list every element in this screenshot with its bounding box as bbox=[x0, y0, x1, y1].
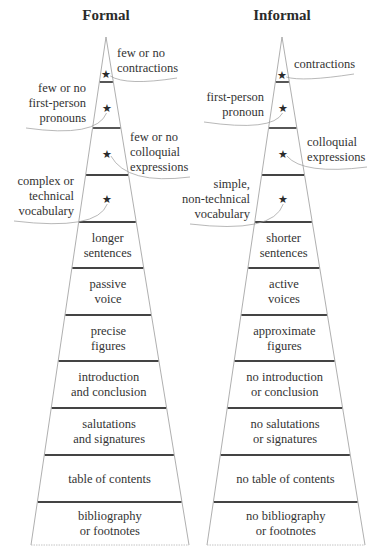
callout-label: contractions bbox=[117, 61, 178, 75]
informal-tier-label: sentences bbox=[260, 246, 308, 260]
star-icon: ★ bbox=[101, 68, 111, 80]
callout-label: simple, bbox=[214, 177, 250, 191]
formal-tier-label: table of contents bbox=[68, 472, 151, 486]
formal-tier-label: bibliography bbox=[78, 509, 143, 523]
informal-tier-label: no introduction bbox=[246, 370, 323, 384]
star-icon: ★ bbox=[102, 148, 112, 160]
informal-tier-label: no table of contents bbox=[236, 472, 334, 486]
callout-leader-line bbox=[110, 76, 177, 82]
formal-tier-label: precise bbox=[91, 324, 127, 338]
formal-tier-label: figures bbox=[91, 339, 126, 353]
star-icon: ★ bbox=[278, 102, 288, 114]
informal-tier-label: or signatures bbox=[253, 432, 317, 446]
informal-tier-label: voices bbox=[268, 292, 300, 306]
formal-tier-label: voice bbox=[94, 292, 122, 306]
pyramid-right-edge bbox=[106, 37, 189, 545]
formal-tier-label: passive bbox=[90, 277, 127, 291]
star-icon: ★ bbox=[278, 193, 288, 205]
formal-tier-label: sentences bbox=[84, 246, 132, 260]
callout-label: vocabulary bbox=[194, 207, 250, 221]
formal-tier-label: introduction bbox=[78, 370, 140, 384]
callout-label: pronoun bbox=[222, 105, 264, 119]
callout-label: first-person bbox=[28, 96, 86, 110]
informal-tier-label: or footnotes bbox=[256, 524, 316, 538]
star-icon: ★ bbox=[102, 193, 112, 205]
star-icon: ★ bbox=[277, 69, 287, 81]
formality-pyramids-diagram: Formal★few or nocontractions★few or nofi… bbox=[0, 0, 376, 554]
formal-tier-label: and conclusion bbox=[71, 385, 147, 399]
pyramid-right-edge bbox=[282, 37, 365, 545]
callout-label: technical bbox=[29, 189, 75, 203]
callout-label: first-person bbox=[206, 90, 264, 104]
star-icon: ★ bbox=[278, 148, 288, 160]
callout-label: pronouns bbox=[39, 111, 86, 125]
informal-tier-label: shorter bbox=[266, 231, 302, 245]
informal-tier-label: no salutations bbox=[251, 417, 320, 431]
callout-label: colloquial bbox=[307, 135, 358, 149]
callout-label: few or no bbox=[130, 130, 178, 144]
callout-label: expressions bbox=[307, 150, 365, 164]
callout-label: colloquial bbox=[130, 145, 181, 159]
callout-label: contractions bbox=[294, 57, 355, 71]
formal-tier-label: or footnotes bbox=[80, 524, 140, 538]
formal-tier-label: and signatures bbox=[73, 432, 145, 446]
informal-tier-label: no bibliography bbox=[246, 509, 326, 523]
informal-pyramid: Informal★contractions★first-personpronou… bbox=[182, 7, 367, 545]
informal-tier-label: approximate bbox=[253, 324, 316, 338]
formal-tier-label: salutations bbox=[82, 417, 136, 431]
callout-leader-line bbox=[286, 74, 354, 79]
formal-tier-label: longer bbox=[92, 231, 125, 245]
formal-pyramid: Formal★few or nocontractions★few or nofi… bbox=[14, 7, 190, 545]
callout-label: few or no bbox=[117, 46, 165, 60]
callout-label: few or no bbox=[38, 81, 86, 95]
callout-label: complex or bbox=[17, 174, 74, 188]
informal-tier-label: active bbox=[269, 277, 299, 291]
informal-tier-label: figures bbox=[267, 339, 302, 353]
informal-tier-label: or conclusion bbox=[251, 385, 319, 399]
callout-label: vocabulary bbox=[18, 204, 74, 218]
callout-label: expressions bbox=[130, 160, 188, 174]
formal-title: Formal bbox=[82, 7, 129, 23]
callout-label: non-technical bbox=[182, 192, 251, 206]
star-icon: ★ bbox=[102, 102, 112, 114]
informal-title: Informal bbox=[253, 7, 311, 23]
